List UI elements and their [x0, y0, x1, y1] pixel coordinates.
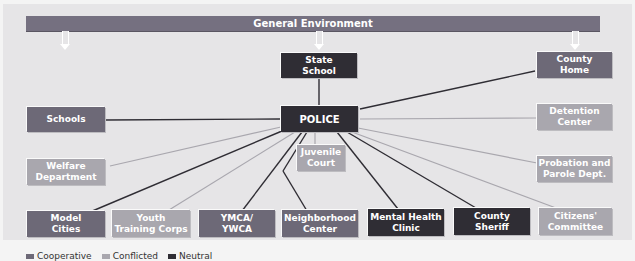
node-neighborhood-center: Neighborhood Center	[282, 210, 358, 237]
node-youth-training-corps: Youth Training Corps	[112, 210, 190, 237]
node-schools: Schools	[27, 107, 105, 132]
node-citizens-committee: Citizens' Committee	[539, 208, 612, 235]
legend-label: Conflicted	[113, 251, 158, 261]
node-county-sheriff: County Sheriff	[454, 208, 530, 235]
node-model-cities: Model Cities	[27, 211, 105, 237]
link-neighborhood-b	[283, 171, 307, 211]
node-welfare-department: Welfare Department	[27, 159, 105, 185]
legend-label: Cooperative	[37, 251, 92, 261]
swatch-conflicted-icon	[102, 254, 110, 259]
node-ymca-ywca: YMCA/ YWCA	[199, 210, 275, 237]
node-police: POLICE	[281, 106, 358, 132]
node-probation-parole: Probation and Parole Dept.	[537, 156, 612, 182]
link-schools	[106, 119, 280, 120]
node-detention-center: Detention Center	[537, 104, 612, 130]
node-state-school: State School	[281, 53, 357, 78]
swatch-cooperative-icon	[26, 254, 34, 259]
legend-item-conflicted: Conflicted	[102, 251, 158, 261]
link-probation	[358, 128, 537, 163]
legend-label: Neutral	[179, 251, 212, 261]
node-county-home: County Home	[537, 52, 612, 78]
legend: Cooperative Conflicted Neutral	[26, 251, 212, 261]
link-citizens	[352, 132, 556, 208]
swatch-neutral-icon	[168, 254, 176, 259]
legend-item-cooperative: Cooperative	[26, 251, 92, 261]
legend-item-neutral: Neutral	[168, 251, 212, 261]
link-welfare	[110, 127, 281, 166]
node-juvenile-court: Juvenile Court	[297, 145, 345, 171]
link-detention	[360, 118, 537, 119]
link-county-home	[360, 71, 535, 109]
node-mental-health-clinic: Mental Health Clinic	[368, 209, 444, 236]
